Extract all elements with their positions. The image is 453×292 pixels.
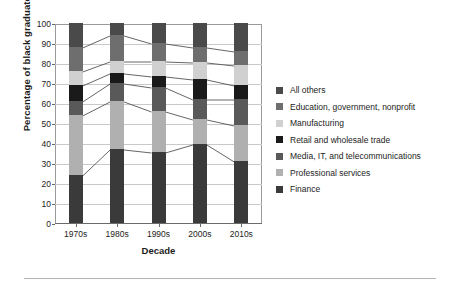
bar-segment[interactable] bbox=[152, 76, 166, 87]
bar-segment[interactable] bbox=[69, 71, 83, 85]
connector-line bbox=[124, 150, 151, 153]
bar-stack[interactable] bbox=[152, 23, 166, 223]
connector-line bbox=[166, 145, 193, 153]
bar-segment[interactable] bbox=[69, 115, 83, 175]
y-tick-label: 20 bbox=[29, 180, 51, 188]
x-tick-label: 2000s bbox=[180, 229, 220, 239]
bar-segment[interactable] bbox=[234, 99, 248, 125]
connector-line bbox=[166, 77, 193, 80]
legend-swatch-icon bbox=[276, 120, 283, 127]
legend-swatch-icon bbox=[276, 169, 283, 176]
y-tick-label: 60 bbox=[29, 100, 51, 108]
x-tick-mark bbox=[117, 224, 118, 227]
y-axis-ticks: 0102030405060708090100 bbox=[27, 24, 51, 224]
bar-stack[interactable] bbox=[234, 23, 248, 223]
legend-item[interactable]: Media, IT, and telecommunications bbox=[276, 148, 452, 165]
x-tick-mark bbox=[200, 224, 201, 227]
chart-figure: Percentage of black graduates 0102030405… bbox=[0, 0, 453, 292]
y-tick-label: 80 bbox=[29, 60, 51, 68]
bar-segment[interactable] bbox=[193, 47, 207, 62]
connector-line bbox=[207, 48, 234, 52]
bar-segment[interactable] bbox=[234, 161, 248, 223]
bar-segment[interactable] bbox=[110, 83, 124, 101]
legend-item[interactable]: Education, government, nonprofit bbox=[276, 99, 452, 116]
bar-segment[interactable] bbox=[152, 23, 166, 43]
bar-segment[interactable] bbox=[152, 43, 166, 61]
connector-line bbox=[207, 145, 234, 162]
y-tick-label: 10 bbox=[29, 200, 51, 208]
legend-swatch-icon bbox=[276, 103, 283, 110]
bar-segment[interactable] bbox=[193, 99, 207, 119]
bar-segment[interactable] bbox=[69, 47, 83, 71]
connector-line bbox=[166, 88, 193, 100]
legend-label: Professional services bbox=[290, 168, 370, 178]
legend-item[interactable]: Finance bbox=[276, 181, 452, 198]
y-tick-label: 30 bbox=[29, 160, 51, 168]
bar-stack[interactable] bbox=[69, 23, 83, 223]
bar-segment[interactable] bbox=[110, 101, 124, 149]
y-tick-label: 40 bbox=[29, 140, 51, 148]
x-tick-mark bbox=[76, 224, 77, 227]
legend-swatch-icon bbox=[276, 136, 283, 143]
bar-segment[interactable] bbox=[152, 111, 166, 152]
y-tick-label: 70 bbox=[29, 80, 51, 88]
bar-segment[interactable] bbox=[234, 65, 248, 85]
x-tick-label: 1980s bbox=[97, 229, 137, 239]
legend-item[interactable]: All others bbox=[276, 82, 452, 99]
x-tick-label: 1970s bbox=[56, 229, 96, 239]
bar-segment[interactable] bbox=[193, 144, 207, 223]
connector-line bbox=[83, 84, 110, 102]
connector-line bbox=[83, 36, 110, 48]
bar-segment[interactable] bbox=[193, 62, 207, 79]
legend-label: All others bbox=[290, 85, 325, 95]
bar-segment[interactable] bbox=[234, 125, 248, 161]
bar-segment[interactable] bbox=[69, 23, 83, 47]
bar-stack[interactable] bbox=[110, 23, 124, 223]
legend-swatch-icon bbox=[276, 87, 283, 94]
connector-line bbox=[166, 44, 193, 48]
bar-segment[interactable] bbox=[152, 61, 166, 76]
x-tick-mark bbox=[159, 224, 160, 227]
legend-label: Retail and wholesale trade bbox=[290, 135, 390, 145]
legend-item[interactable]: Retail and wholesale trade bbox=[276, 132, 452, 149]
legend-item[interactable]: Manufacturing bbox=[276, 115, 452, 132]
y-tick-label: 90 bbox=[29, 40, 51, 48]
bar-segment[interactable] bbox=[193, 79, 207, 99]
connector-line bbox=[124, 74, 151, 77]
bar-segment[interactable] bbox=[69, 101, 83, 115]
y-tick-label: 50 bbox=[29, 120, 51, 128]
bar-segment[interactable] bbox=[152, 87, 166, 111]
bar-segment[interactable] bbox=[110, 61, 124, 73]
bar-segment[interactable] bbox=[69, 85, 83, 101]
bar-segment[interactable] bbox=[234, 51, 248, 65]
bar-segment[interactable] bbox=[110, 149, 124, 223]
bar-segment[interactable] bbox=[152, 152, 166, 223]
x-tick-mark bbox=[241, 224, 242, 227]
legend-label: Education, government, nonprofit bbox=[290, 102, 415, 112]
bar-segment[interactable] bbox=[110, 73, 124, 83]
y-tick-label: 100 bbox=[29, 20, 51, 28]
footer-divider bbox=[24, 278, 436, 279]
legend-swatch-icon bbox=[276, 186, 283, 193]
legend-label: Finance bbox=[290, 184, 320, 194]
bar-segment[interactable] bbox=[234, 23, 248, 51]
bar-segment[interactable] bbox=[234, 85, 248, 99]
bar-segment[interactable] bbox=[193, 119, 207, 144]
legend-swatch-icon bbox=[276, 153, 283, 160]
x-tick-label: 1990s bbox=[139, 229, 179, 239]
chart-legend: All othersEducation, government, nonprof… bbox=[276, 82, 452, 198]
x-tick-label: 2010s bbox=[221, 229, 261, 239]
bar-segment[interactable] bbox=[110, 35, 124, 61]
plot-area bbox=[55, 24, 262, 224]
legend-item[interactable]: Professional services bbox=[276, 165, 452, 182]
connector-line bbox=[166, 112, 193, 120]
bar-segment[interactable] bbox=[69, 175, 83, 223]
y-tick-label: 0 bbox=[29, 220, 51, 228]
x-axis-title: Decade bbox=[55, 245, 262, 256]
legend-label: Manufacturing bbox=[290, 118, 344, 128]
bar-segment[interactable] bbox=[193, 23, 207, 47]
legend-label: Media, IT, and telecommunications bbox=[290, 151, 421, 161]
bar-segment[interactable] bbox=[110, 23, 124, 35]
connector-line bbox=[124, 84, 151, 88]
bar-stack[interactable] bbox=[193, 23, 207, 223]
